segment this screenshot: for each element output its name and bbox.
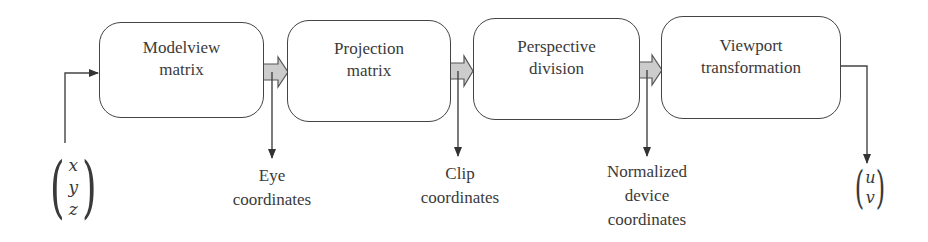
modelview-matrix-box: Modelview matrix bbox=[99, 22, 264, 118]
viewport-transformation-box: Viewport transformation bbox=[661, 16, 841, 119]
block-arrow-icon bbox=[263, 57, 288, 87]
perspective-division-box: Perspective division bbox=[473, 18, 640, 120]
stage-subtitle: matrix bbox=[159, 59, 203, 81]
stage-title: Modelview bbox=[143, 37, 220, 59]
stage-title: Perspective bbox=[517, 36, 595, 58]
stage-subtitle: matrix bbox=[347, 60, 391, 82]
stage-subtitle: division bbox=[529, 58, 584, 80]
vector-y: y bbox=[69, 176, 79, 198]
rendering-pipeline-diagram: Modelview matrix Projection matrix Persp… bbox=[0, 0, 928, 242]
vector-z: z bbox=[69, 198, 78, 220]
input-vector: ( x y z ) bbox=[44, 150, 103, 224]
clip-coordinates-label: Clip coordinates bbox=[421, 162, 499, 210]
right-paren: ) bbox=[876, 166, 885, 210]
stage-title: Viewport bbox=[719, 35, 782, 57]
normalized-device-coordinates-label: Normalized device coordinates bbox=[607, 160, 687, 232]
eye-coordinates-label: Eye coordinates bbox=[233, 164, 311, 212]
left-paren: ( bbox=[50, 150, 65, 224]
right-paren: ) bbox=[82, 150, 97, 224]
block-arrow-icon bbox=[639, 55, 662, 85]
vector-x: x bbox=[69, 154, 79, 176]
vector-v: v bbox=[866, 188, 875, 208]
input-arrow bbox=[65, 73, 98, 143]
output-vector: ( u v ) bbox=[851, 166, 890, 210]
projection-matrix-box: Projection matrix bbox=[287, 20, 451, 122]
vector-u: u bbox=[865, 168, 875, 188]
left-paren: ( bbox=[855, 166, 864, 210]
stage-subtitle: transformation bbox=[701, 57, 801, 79]
stage-title: Projection bbox=[334, 38, 404, 60]
block-arrow-icon bbox=[450, 56, 473, 86]
output-arrow bbox=[840, 66, 867, 163]
